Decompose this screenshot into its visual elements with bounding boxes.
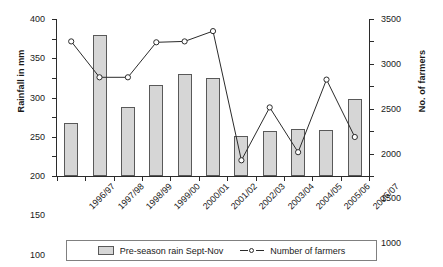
y-axis-right-tick: 3500	[369, 19, 374, 20]
y-axis-right-tick: 1500	[369, 109, 374, 110]
line-marker	[267, 105, 272, 110]
x-axis-tick	[312, 176, 313, 181]
line-marker	[296, 150, 301, 155]
y-axis-left-tick-label: 300	[30, 94, 45, 103]
x-axis-category-label: 2000/01	[201, 182, 230, 211]
y-axis-left-tick-label: 200	[30, 172, 45, 181]
x-axis-tick	[256, 176, 257, 181]
y-axis-right-tick-label: 3500	[381, 15, 401, 24]
x-axis-tick	[199, 176, 200, 181]
y-axis-right-title: No. of farmers	[417, 31, 427, 131]
rainfall-farmers-combo-chart: Rainfall in mm No. of farmers 0501001502…	[0, 0, 443, 267]
y-axis-right-tick: 500	[369, 154, 374, 155]
legend-entry-number-of-farmers: Number of farmers	[240, 246, 345, 256]
x-axis-category-label: 1998/99	[144, 182, 173, 211]
line-marker	[239, 158, 244, 163]
legend-label-number-of-farmers: Number of farmers	[270, 246, 345, 256]
y-axis-right-tick: 2000	[369, 86, 374, 87]
line-marker	[154, 40, 159, 45]
x-axis-category-label: 1997/98	[116, 182, 145, 211]
y-axis-left-tick-label: 100	[30, 251, 45, 260]
line-marker	[210, 29, 215, 34]
legend-label-pre-season-rain: Pre-season rain Sept-Nov	[120, 246, 224, 256]
x-axis-category-label: 2002/03	[258, 182, 287, 211]
y-axis-left-tick-label: 400	[30, 15, 45, 24]
x-axis-tick	[114, 176, 115, 181]
y-axis-left-tick-label: 250	[30, 133, 45, 142]
line-marker	[182, 39, 187, 44]
x-axis-category-label: 2001/02	[230, 182, 259, 211]
y-axis-right-tick-label: 3000	[381, 60, 401, 69]
line-marker	[324, 77, 329, 82]
line-marker	[352, 134, 357, 139]
x-axis-tick	[341, 176, 342, 181]
legend-entry-pre-season-rain: Pre-season rain Sept-Nov	[98, 246, 224, 256]
x-axis-tick	[170, 176, 171, 181]
x-axis-category-label: 1996/97	[88, 182, 117, 211]
x-axis-tick	[284, 176, 285, 181]
line-marker	[69, 39, 74, 44]
line-path	[71, 31, 355, 160]
plot-area: 050100150200250300350400 050010001500200…	[57, 19, 369, 176]
y-axis-right-tick: 2500	[369, 64, 374, 65]
y-axis-right-tick: 3000	[369, 41, 374, 42]
x-axis-tick	[85, 176, 86, 181]
y-axis-right-tick-label: 2000	[381, 150, 401, 159]
x-axis-category-label: 2004/05	[315, 182, 344, 211]
y-axis-left-tick-label: 150	[30, 211, 45, 220]
line-series-number-of-farmers	[57, 19, 369, 176]
line-markers	[69, 29, 358, 163]
y-axis-right-tick-label: 1000	[381, 239, 401, 248]
x-axis-category-label: 2005/06	[343, 182, 372, 211]
chart-legend: Pre-season rain Sept-Nov Number of farme…	[66, 240, 377, 261]
bar-swatch-icon	[98, 246, 114, 255]
y-axis-right-tick: 1000	[369, 131, 374, 132]
y-axis-left-tick-label: 350	[30, 54, 45, 63]
x-axis-category-label: 1999/00	[173, 182, 202, 211]
x-axis-category-label: 2003/04	[286, 182, 315, 211]
line-marker-icon	[240, 246, 264, 255]
x-axis-tick	[142, 176, 143, 181]
y-axis-right-tick-label: 2500	[381, 105, 401, 114]
x-axis-tick	[57, 176, 58, 181]
x-axis-tick	[369, 176, 370, 181]
line-marker	[125, 75, 130, 80]
x-axis-line	[56, 176, 370, 177]
line-marker	[97, 75, 102, 80]
y-axis-left-title: Rainfall in mm	[16, 31, 26, 131]
x-axis-tick	[227, 176, 228, 181]
